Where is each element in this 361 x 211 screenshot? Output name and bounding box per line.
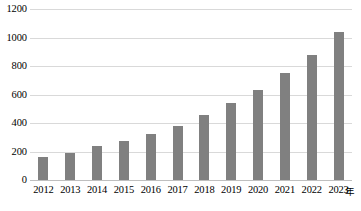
bar-slot	[191, 9, 218, 180]
bar-slot	[245, 9, 272, 180]
bar-series	[30, 9, 352, 180]
bar-slot	[137, 9, 164, 180]
y-tick-label: 600	[12, 89, 27, 100]
plot-area	[30, 9, 352, 180]
x-axis-unit-label: 年	[345, 188, 355, 198]
x-axis-line	[30, 180, 352, 181]
bar-slot	[84, 9, 111, 180]
x-tick-label: 2021	[271, 182, 298, 198]
bar	[334, 32, 344, 180]
x-tick-label: 2015	[110, 182, 137, 198]
x-tick-label: 2016	[137, 182, 164, 198]
bar	[280, 73, 290, 180]
bar	[119, 141, 129, 180]
bar-slot	[218, 9, 245, 180]
bar-slot	[325, 9, 352, 180]
y-tick-label: 200	[12, 146, 27, 157]
y-tick-label: 1000	[6, 32, 27, 43]
x-tick-label: 2019	[218, 182, 245, 198]
x-tick-label: 2018	[191, 182, 218, 198]
bar	[226, 103, 236, 180]
bar	[146, 134, 156, 180]
y-tick-label: 0	[22, 175, 27, 186]
bar-slot	[164, 9, 191, 180]
x-axis-tick-labels: 2012201320142015201620172018201920202021…	[30, 182, 352, 202]
bar	[38, 157, 48, 180]
bar	[173, 126, 183, 180]
bar	[65, 153, 75, 180]
bar-slot	[57, 9, 84, 180]
bar-chart: 1200 1000 800 600 400 200 0 201220132014…	[0, 0, 361, 211]
bar	[253, 90, 263, 180]
bar-slot	[110, 9, 137, 180]
x-tick-label: 2013	[57, 182, 84, 198]
x-tick-label: 2012	[30, 182, 57, 198]
x-tick-label: 2022	[298, 182, 325, 198]
y-tick-label: 800	[12, 61, 27, 72]
x-tick-label: 2020	[245, 182, 272, 198]
y-tick-label: 400	[12, 118, 27, 129]
x-tick-label: 2017	[164, 182, 191, 198]
bar-slot	[271, 9, 298, 180]
bar-slot	[30, 9, 57, 180]
y-tick-label: 1200	[6, 4, 27, 15]
x-tick-label: 2014	[84, 182, 111, 198]
bar	[199, 115, 209, 180]
bar-slot	[298, 9, 325, 180]
bar	[92, 146, 102, 180]
y-axis-tick-labels: 1200 1000 800 600 400 200 0	[0, 0, 30, 190]
bar	[307, 55, 317, 180]
